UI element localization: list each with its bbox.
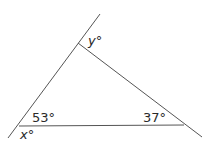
right-side-line bbox=[78, 43, 202, 137]
angle-x-label: x° bbox=[19, 127, 34, 142]
angle-53-label: 53° bbox=[32, 110, 55, 125]
angle-37-label: 37° bbox=[143, 110, 166, 125]
base-line bbox=[19, 125, 184, 126]
triangle-diagram: 53° 37° x° y° bbox=[0, 0, 217, 148]
angle-y-label: y° bbox=[87, 33, 102, 48]
